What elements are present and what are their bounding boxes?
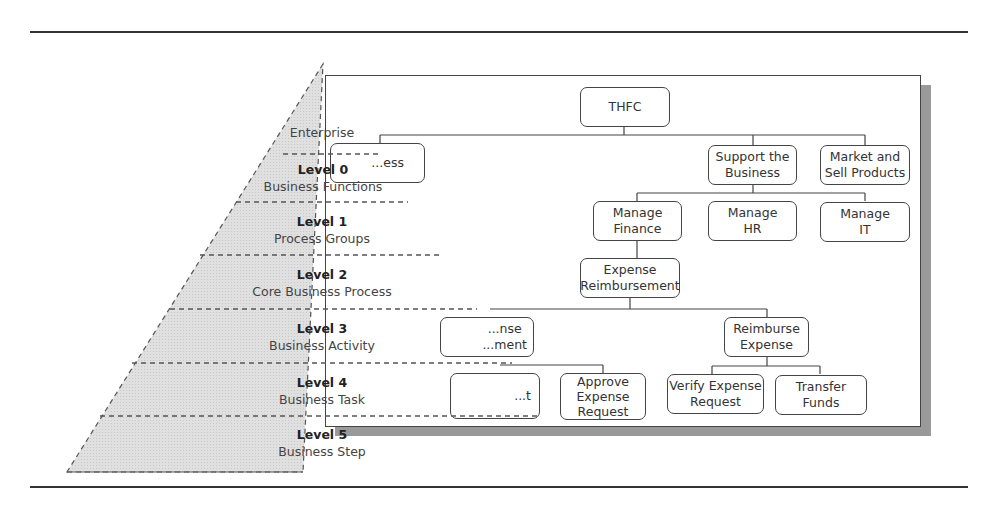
level-title: Level 1 — [274, 213, 370, 230]
pyramid-apex-enterprise: Enterprise — [290, 124, 354, 141]
level-subtitle: Business Functions — [264, 179, 383, 194]
pyramid-level-5: Level 5Business Step — [278, 426, 366, 460]
level-subtitle: Business Step — [278, 444, 366, 459]
enterprise-label: Enterprise — [290, 125, 354, 140]
pyramid-level-3: Level 3Business Activity — [269, 320, 375, 354]
level-title: Level 2 — [252, 266, 391, 283]
pyramid-level-2: Level 2Core Business Process — [252, 266, 391, 300]
level-title: Level 5 — [278, 426, 366, 443]
pyramid-level-0: Level 0Business Functions — [264, 161, 383, 195]
pyramid-level-4: Level 4Business Task — [279, 374, 365, 408]
level-subtitle: Business Task — [279, 392, 365, 407]
pyramid-level-1: Level 1Process Groups — [274, 213, 370, 247]
level-subtitle: Business Activity — [269, 338, 375, 353]
level-pyramid — [0, 0, 994, 518]
level-title: Level 4 — [279, 374, 365, 391]
level-title: Level 0 — [264, 161, 383, 178]
level-subtitle: Core Business Process — [252, 284, 391, 299]
level-title: Level 3 — [269, 320, 375, 337]
level-subtitle: Process Groups — [274, 231, 370, 246]
